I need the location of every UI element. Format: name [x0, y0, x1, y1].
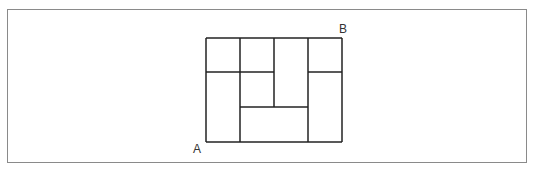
label-end-b: B	[339, 23, 347, 35]
grid-diagram	[0, 0, 534, 172]
label-start-a: A	[193, 143, 201, 155]
